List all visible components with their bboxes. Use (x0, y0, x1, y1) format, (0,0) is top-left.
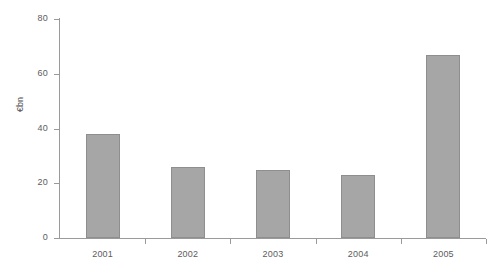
y-axis-tick-label: 60 (22, 69, 48, 78)
y-axis-tick-label: 40 (22, 124, 48, 133)
x-axis-tick-label-2005: 2005 (408, 250, 478, 259)
y-axis-title: €bn (16, 97, 25, 112)
y-axis-tick-label: 80 (22, 14, 48, 23)
x-axis-tick (316, 239, 317, 244)
y-axis-tick-label: 20 (22, 178, 48, 187)
x-axis-tick-label-2003: 2003 (238, 250, 308, 259)
x-axis-tick (401, 239, 402, 244)
y-axis-tick (54, 183, 59, 184)
y-axis-tick (54, 19, 59, 20)
x-axis-tick-label-2004: 2004 (323, 250, 393, 259)
bar-2004 (341, 175, 375, 238)
bar-2001 (86, 134, 120, 238)
bar-2002 (171, 167, 205, 238)
y-axis-tick (54, 129, 59, 130)
y-axis-tick (54, 238, 59, 239)
bar-2003 (256, 170, 290, 238)
y-axis-tick-label: 0 (22, 233, 48, 242)
y-axis-line (59, 18, 60, 239)
x-axis-tick (230, 239, 231, 244)
bar-2005 (426, 55, 460, 238)
y-axis-tick (54, 74, 59, 75)
x-axis-tick-label-2001: 2001 (68, 250, 138, 259)
x-axis-line (59, 238, 486, 239)
bar-chart-figure: €bn 020406080 20012002200320042005 (0, 0, 504, 278)
x-axis-tick (145, 239, 146, 244)
x-axis-tick-label-2002: 2002 (153, 250, 223, 259)
x-axis-tick (486, 239, 487, 244)
